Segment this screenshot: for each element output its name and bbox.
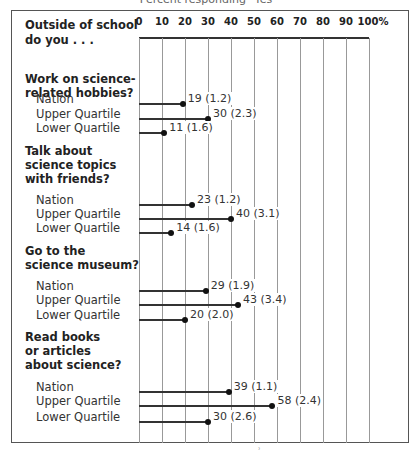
bar-line bbox=[139, 391, 229, 393]
question-label: Talk about bbox=[25, 144, 92, 158]
value-label: 23 (1.2) bbox=[196, 193, 242, 206]
data-point bbox=[189, 202, 195, 208]
gridline bbox=[300, 38, 301, 443]
data-point bbox=[161, 130, 167, 136]
tick-label: 20 bbox=[178, 16, 192, 27]
bar-line bbox=[139, 118, 208, 120]
row-label: Nation bbox=[36, 92, 74, 106]
value-label: 19 (1.2) bbox=[187, 92, 233, 105]
page-mark: ʾ bbox=[258, 446, 261, 456]
gridline bbox=[346, 38, 347, 443]
row-label: Upper Quartile bbox=[36, 207, 121, 221]
axis-header-line2: do you . . . bbox=[25, 33, 94, 47]
row-label: Lower Quartile bbox=[36, 308, 120, 322]
question-label: Read books bbox=[25, 330, 100, 344]
value-label: 20 (2.0) bbox=[189, 308, 235, 321]
question-label: science topics bbox=[25, 158, 116, 172]
data-point bbox=[180, 101, 186, 107]
tick-label: 10 bbox=[155, 16, 169, 27]
row-label: Upper Quartile bbox=[36, 394, 121, 408]
value-label: 29 (1.9) bbox=[210, 279, 256, 292]
question-label: about science? bbox=[25, 358, 121, 372]
tick-label: 100% bbox=[358, 16, 389, 27]
row-label: Lower Quartile bbox=[36, 410, 120, 424]
bar-line bbox=[139, 232, 171, 234]
question-label: science museum? bbox=[25, 258, 139, 272]
question-label: with friends? bbox=[25, 172, 110, 186]
row-label: Lower Quartile bbox=[36, 221, 120, 235]
value-label: 14 (1.6) bbox=[175, 221, 221, 234]
bar-line bbox=[139, 218, 231, 220]
data-point bbox=[168, 230, 174, 236]
tick-label: 40 bbox=[224, 16, 238, 27]
value-label: 58 (2.4) bbox=[276, 394, 322, 407]
data-point bbox=[228, 216, 234, 222]
value-label: 40 (3.1) bbox=[235, 207, 281, 220]
bar-line bbox=[139, 204, 192, 206]
row-label: Lower Quartile bbox=[36, 121, 120, 135]
value-label: 39 (1.1) bbox=[233, 380, 279, 393]
bar-line bbox=[139, 405, 272, 407]
tick-label: 90 bbox=[339, 16, 353, 27]
gridline bbox=[139, 38, 140, 443]
bar-line bbox=[139, 304, 238, 306]
tick-label: 50 bbox=[247, 16, 261, 27]
gridline bbox=[323, 38, 324, 443]
tick-label: 30 bbox=[201, 16, 215, 27]
bar-line bbox=[139, 290, 206, 292]
data-point bbox=[205, 419, 211, 425]
data-point bbox=[226, 389, 232, 395]
row-label: Nation bbox=[36, 380, 74, 394]
chart-title-partial: Percent responding "Yes" bbox=[0, 0, 417, 6]
question-label: or articles bbox=[25, 344, 91, 358]
value-label: 30 (2.3) bbox=[212, 107, 258, 120]
row-label: Nation bbox=[36, 193, 74, 207]
value-label: 43 (3.4) bbox=[242, 293, 288, 306]
question-label: Go to the bbox=[25, 244, 85, 258]
tick-label: 80 bbox=[316, 16, 330, 27]
value-label: 11 (1.6) bbox=[168, 121, 214, 134]
tick-label: 70 bbox=[293, 16, 307, 27]
data-point bbox=[203, 288, 209, 294]
data-point bbox=[235, 302, 241, 308]
row-label: Nation bbox=[36, 279, 74, 293]
gridline bbox=[369, 38, 370, 443]
tick-label: 0 bbox=[136, 16, 143, 27]
bar-line bbox=[139, 319, 185, 321]
data-point bbox=[182, 317, 188, 323]
row-label: Upper Quartile bbox=[36, 107, 121, 121]
gridline bbox=[162, 38, 163, 443]
data-point bbox=[269, 403, 275, 409]
value-label: 30 (2.6) bbox=[212, 410, 258, 423]
axis-header-line1: Outside of school bbox=[25, 18, 138, 32]
row-label: Upper Quartile bbox=[36, 293, 121, 307]
bar-line bbox=[139, 421, 208, 423]
tick-label: 60 bbox=[270, 16, 284, 27]
bar-line bbox=[139, 103, 183, 105]
question-label: Work on science- bbox=[25, 72, 136, 86]
